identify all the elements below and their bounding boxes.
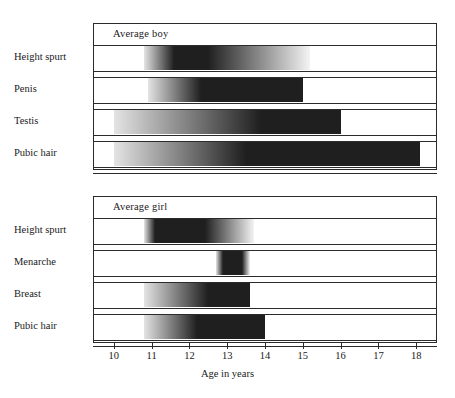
x-axis-tick [152,343,153,349]
panel-title-girl: Average girl [113,201,167,212]
range-bar [144,46,310,70]
bar-solid-core [208,283,250,307]
range-bar [216,251,250,275]
row-label-pubic-hair: Pubic hair [0,320,86,331]
range-bar [144,315,265,339]
panel-divider-rule [93,276,437,277]
bar-solid-core [261,110,340,134]
bar-stipple-onset [114,110,261,134]
x-axis-title: Age in years [0,368,455,379]
x-axis-tick-label: 12 [184,350,195,361]
bar-track [93,46,437,70]
bar-solid-core [246,142,420,166]
row-label-penis: Penis [0,83,86,94]
x-axis-tick [378,343,379,349]
panel-title-boy: Average boy [113,28,168,39]
bar-track [93,219,437,243]
x-axis-tick [303,343,304,349]
bar-stipple-completion [242,251,250,275]
bar-solid-core [201,78,303,102]
row-label-testis: Testis [0,115,86,126]
x-axis-tick-label: 10 [109,350,120,361]
x-axis-tick-label: 15 [298,350,309,361]
bar-track [93,251,437,275]
bar-track [93,110,437,134]
row-label-height-spurt: Height spurt [0,224,86,235]
panel-divider-rule [93,167,437,168]
row-label-pubic-hair: Pubic hair [0,147,86,158]
bar-stipple-onset [144,219,155,243]
bar-track [93,283,437,307]
bar-stipple-onset [216,251,224,275]
panel-divider-rule [93,173,437,174]
range-bar [114,142,420,166]
x-axis: 101112131415161718 [93,343,437,344]
bar-solid-core [223,251,242,275]
row-label-height-spurt: Height spurt [0,51,86,62]
bar-solid-core [197,315,265,339]
x-axis-tick [227,343,228,349]
row-label-breast: Breast [0,288,86,299]
range-bar [144,219,254,243]
range-bar [148,78,303,102]
x-axis-tick [265,343,266,349]
bar-track [93,142,437,166]
bar-stipple-onset [144,283,208,307]
x-axis-tick [189,343,190,349]
bar-stipple-completion [208,46,310,70]
bar-solid-core [155,219,204,243]
x-axis-tick-label: 14 [260,350,271,361]
x-axis-tick [341,343,342,349]
bar-track [93,78,437,102]
panel-divider-rule [93,103,437,104]
bar-track [93,315,437,339]
panel-divider-rule [93,340,437,341]
bar-stipple-onset [144,315,197,339]
x-axis-tick-label: 11 [147,350,157,361]
x-axis-tick-label: 13 [222,350,233,361]
panel-divider-rule [93,244,437,245]
bar-stipple-onset [148,78,201,102]
panel-divider-rule [93,71,437,72]
bar-stipple-completion [205,219,254,243]
range-bar [144,283,250,307]
x-axis-tick-label: 18 [411,350,422,361]
x-axis-tick [416,343,417,349]
bar-stipple-onset [114,142,246,166]
row-label-menarche: Menarche [0,256,86,267]
x-axis-tick-label: 17 [373,350,384,361]
x-axis-tick [114,343,115,349]
bar-stipple-onset [144,46,174,70]
bar-solid-core [174,46,208,70]
x-axis-tick-label: 16 [335,350,346,361]
range-bar [114,110,341,134]
figure-canvas: Average boy Average girl Height spurtPen… [0,0,455,398]
panel-divider-rule [93,308,437,309]
panel-divider-rule [93,135,437,136]
